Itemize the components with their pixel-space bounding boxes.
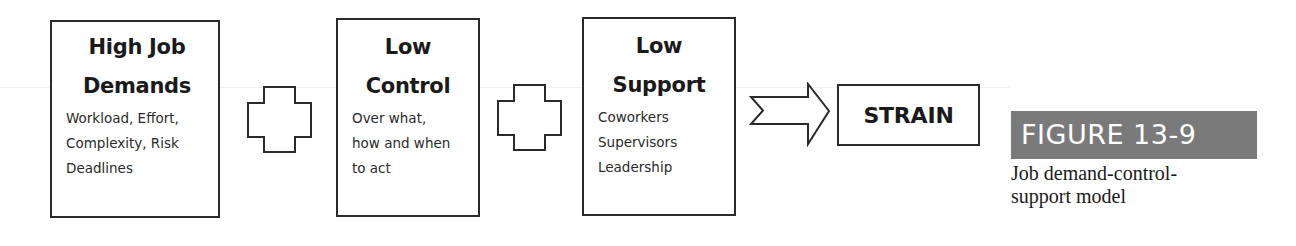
box-title-line: High Job: [56, 28, 218, 67]
low-support-box: Low Support Coworkers Supervisors Leader…: [582, 17, 736, 216]
strain-label: STRAIN: [863, 103, 953, 128]
detail-line: how and when: [352, 131, 478, 156]
box-title-line: Control: [338, 67, 478, 106]
box-title-line: Low: [338, 28, 478, 67]
detail-line: Deadlines: [66, 156, 218, 181]
detail-line: Workload, Effort,: [66, 106, 218, 131]
strain-box: STRAIN: [837, 84, 980, 146]
high-job-demands-box: High Job Demands Workload, Effort, Compl…: [50, 20, 220, 218]
plus-icon: [247, 86, 313, 154]
detail-line: Complexity, Risk: [66, 131, 218, 156]
low-control-box: Low Control Over what, how and when to a…: [336, 18, 480, 217]
box-title: Low Support: [584, 19, 734, 105]
detail-line: to act: [352, 156, 478, 181]
box-title: High Job Demands: [52, 22, 218, 106]
box-title: Low Control: [338, 20, 478, 106]
plus-icon: [497, 84, 563, 152]
detail-line: Coworkers: [598, 105, 734, 130]
right-arrow-icon: [749, 82, 833, 148]
figure-number-label: FIGURE 13-9: [1011, 111, 1257, 159]
box-detail: Workload, Effort, Complexity, Risk Deadl…: [52, 106, 218, 181]
box-title-line: Low: [584, 27, 734, 66]
box-detail: Coworkers Supervisors Leadership: [584, 105, 734, 180]
caption-line: Job demand-control-: [1011, 162, 1271, 185]
box-title-line: Demands: [56, 67, 218, 106]
figure-caption: Job demand-control- support model: [1011, 162, 1271, 208]
caption-line: support model: [1011, 185, 1271, 208]
box-detail: Over what, how and when to act: [338, 106, 478, 181]
detail-line: Over what,: [352, 106, 478, 131]
detail-line: Leadership: [598, 155, 734, 180]
box-title-line: Support: [584, 66, 734, 105]
detail-line: Supervisors: [598, 130, 734, 155]
